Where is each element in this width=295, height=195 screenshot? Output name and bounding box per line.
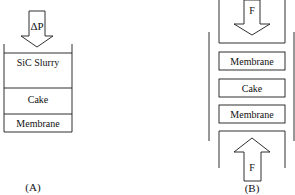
layer-label-top-membrane: Membrane xyxy=(230,56,274,67)
filtration-diagram: ΔP SiC Slurry Cake Membrane (A) F Membra… xyxy=(0,0,295,195)
force-up-arrow-icon xyxy=(234,138,270,181)
layer-label-slurry: SiC Slurry xyxy=(17,57,60,68)
panel-b-caption: (B) xyxy=(245,182,260,195)
layer-label-membrane: Membrane xyxy=(16,118,60,129)
layer-label-cake-b: Cake xyxy=(242,83,263,94)
top-force-label: F xyxy=(249,5,255,16)
layer-label-cake: Cake xyxy=(28,94,49,105)
layer-label-bottom-membrane: Membrane xyxy=(230,109,274,120)
bottom-force-label: F xyxy=(249,162,255,173)
pressure-arrow-label: ΔP xyxy=(30,20,43,32)
panel-a-caption: (A) xyxy=(25,181,41,194)
